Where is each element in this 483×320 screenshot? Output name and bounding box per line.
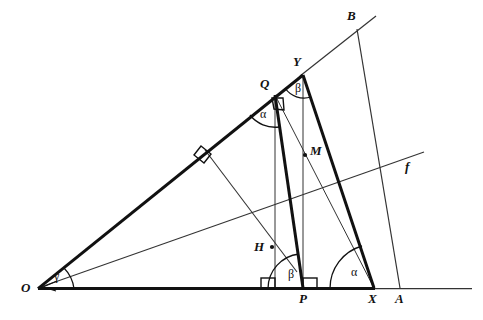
point-label-P: P — [299, 292, 307, 305]
point-label-H: H — [254, 240, 264, 253]
point-label-O: O — [21, 281, 30, 294]
point-label-A: A — [395, 292, 404, 305]
angle-label-beta-at-P: β — [288, 268, 294, 280]
angle-label-alpha-at-X: α — [351, 266, 357, 278]
angle-arc-beta-at-P — [268, 254, 299, 289]
segment-YX — [303, 75, 374, 288]
point-dot-M — [303, 153, 307, 157]
point-dot-H — [270, 245, 274, 249]
geometry-canvas — [0, 0, 483, 320]
geometry-figure: O P X A Q Y B H M f γ α β β α — [0, 0, 483, 320]
line-label-f: f — [405, 160, 409, 173]
angle-label-gamma-at-O: γ — [54, 270, 59, 282]
point-label-X: X — [368, 292, 377, 305]
upper-ray-thin — [300, 16, 376, 76]
segment-QP — [275, 95, 303, 288]
point-label-Q: Q — [260, 77, 269, 90]
angle-label-alpha-at-Q: α — [260, 108, 266, 120]
point-label-B: B — [347, 9, 356, 22]
point-label-M: M — [310, 144, 322, 157]
perpendicular-Y-to-OQ — [205, 150, 297, 272]
point-label-Y: Y — [293, 55, 301, 68]
angle-label-beta-at-Y: β — [295, 82, 301, 94]
right-angle-at-P — [303, 278, 317, 289]
segment-BA — [357, 29, 400, 288]
